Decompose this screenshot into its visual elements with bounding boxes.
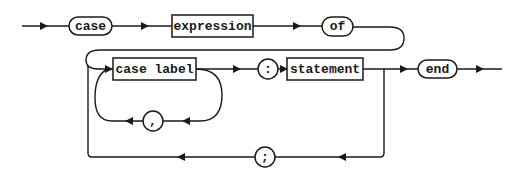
terminal-of-label: of: [330, 19, 346, 34]
arrow-left-icon: [182, 117, 190, 125]
arrow-right-icon: [476, 65, 484, 73]
nonterminal-case-label-label: case label: [115, 62, 193, 77]
terminal-end: end: [418, 60, 457, 78]
terminal-semicolon-label: ;: [261, 150, 269, 165]
arrow-right-icon: [40, 22, 48, 30]
arrow-right-icon: [141, 22, 149, 30]
terminal-comma-label: ,: [149, 114, 157, 129]
arrow-left-icon: [125, 117, 133, 125]
nonterminal-case-label: case label: [113, 58, 196, 80]
terminal-semicolon: ;: [255, 147, 275, 167]
arrow-right-icon: [400, 65, 408, 73]
terminal-end-label: end: [426, 62, 449, 77]
nonterminal-expression: expression: [172, 15, 253, 37]
arrow-left-icon: [338, 153, 346, 161]
nonterminal-expression-label: expression: [173, 19, 251, 34]
nonterminal-statement-label: statement: [290, 62, 360, 77]
arrow-right-icon: [233, 65, 241, 73]
terminal-case: case: [69, 17, 112, 35]
terminal-comma: ,: [143, 111, 163, 131]
nonterminal-statement: statement: [287, 58, 363, 80]
terminal-colon-label: :: [264, 62, 272, 77]
arrow-right-icon: [105, 65, 113, 73]
terminal-colon: :: [258, 59, 278, 79]
arrow-left-icon: [177, 153, 185, 161]
arrow-right-icon: [293, 22, 301, 30]
terminal-case-label: case: [75, 19, 106, 34]
syntax-diagram: case expression of case label : statemen…: [0, 0, 525, 178]
terminal-of: of: [322, 17, 353, 36]
